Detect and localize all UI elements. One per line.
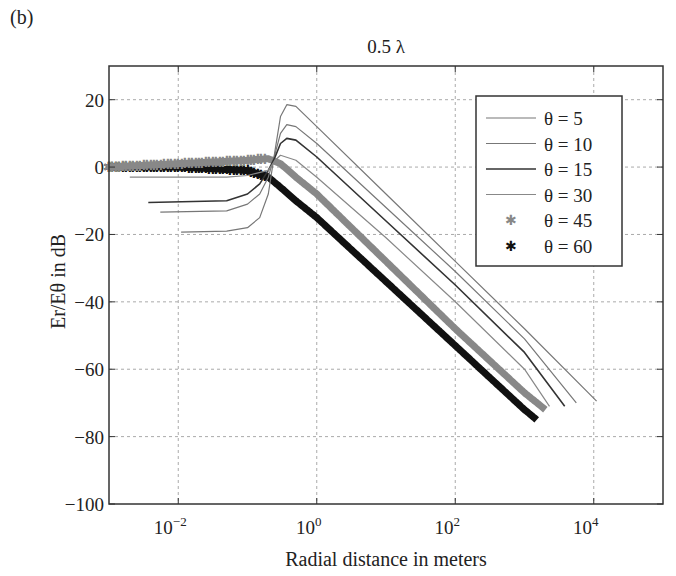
x-tick-label: 102 bbox=[435, 514, 461, 538]
legend-label: θ = 15 bbox=[544, 159, 592, 180]
legend-star-swatch: ✱ bbox=[505, 213, 517, 228]
legend-label: θ = 30 bbox=[544, 185, 592, 206]
y-tick-label: −80 bbox=[74, 427, 104, 448]
y-tick-label: −60 bbox=[74, 359, 104, 380]
star-marker: ✱ bbox=[259, 152, 271, 167]
legend-label: θ = 60 bbox=[544, 236, 592, 257]
y-tick-label: −100 bbox=[65, 494, 104, 515]
series-marker-band bbox=[109, 167, 537, 420]
legend-label: θ = 45 bbox=[544, 210, 592, 231]
y-tick-label: −20 bbox=[74, 224, 104, 245]
legend-label: θ = 5 bbox=[544, 108, 583, 129]
x-tick-label: 104 bbox=[573, 514, 599, 538]
legend-star-swatch: ✱ bbox=[505, 239, 517, 254]
y-tick-label: −40 bbox=[74, 292, 104, 313]
legend-label: θ = 10 bbox=[544, 134, 592, 155]
x-tick-label: 100 bbox=[296, 514, 322, 538]
y-tick-label: 20 bbox=[85, 90, 104, 111]
x-tick-label: 10−2 bbox=[154, 514, 187, 538]
y-tick-label: 0 bbox=[95, 157, 105, 178]
chart-plot: ✱✱✱✱✱✱✱✱✱✱✱✱✱✱✱✱✱✱✱✱✱✱✱✱✱✱✱✱✱✱✱✱✱✱✱✱✱✱✱✱… bbox=[0, 0, 676, 576]
legend: θ = 5θ = 10θ = 15θ = 30✱θ = 45✱θ = 60 bbox=[476, 96, 622, 266]
